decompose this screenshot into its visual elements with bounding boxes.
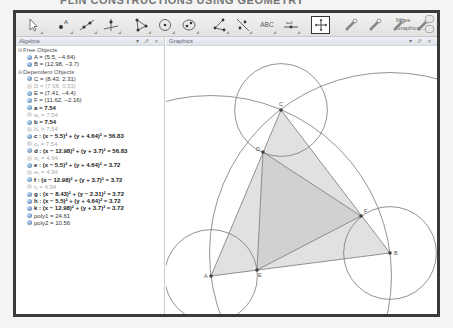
slider-tool[interactable]: a=1 xyxy=(281,16,300,34)
ellipse-tool[interactable] xyxy=(180,16,199,34)
algebra-item[interactable]: f₁ = 4.94 xyxy=(18,184,164,191)
point-C[interactable] xyxy=(279,108,283,112)
collapse-toggle-icon[interactable]: ⊟ xyxy=(18,69,22,75)
algebra-item[interactable]: h : (x − 5.5)² + (y + 4.64)² = 3.72 xyxy=(18,198,164,205)
visibility-toggle-icon[interactable] xyxy=(27,91,32,96)
visibility-toggle-icon[interactable] xyxy=(27,206,32,211)
algebra-item-text: A = (5.5, −4.64) xyxy=(34,54,75,60)
algebra-item-text: D = (7.68, 0.53) xyxy=(34,83,76,89)
algebra-item-text: h : (x − 5.5)² + (y + 4.64)² = 3.72 xyxy=(34,198,121,204)
point-B[interactable] xyxy=(388,251,392,255)
algebra-item[interactable]: C = (8.43, 2.31) xyxy=(18,76,164,83)
algebra-view: Algebra ▾ ⇗ × ⊟Free ObjectsA = (5.5, −4.… xyxy=(16,37,165,314)
visibility-toggle-icon[interactable] xyxy=(27,112,32,117)
visibility-toggle-icon[interactable] xyxy=(27,220,32,225)
algebra-item[interactable]: b = 7.54 xyxy=(18,119,164,126)
algebra-item[interactable]: e₁ = 4.94 xyxy=(18,169,164,176)
algebra-item[interactable]: c : (x − 5.5)² + (y + 4.64)² = 56.83 xyxy=(18,133,164,140)
algebra-item[interactable]: B = (12.98, −3.7) xyxy=(18,61,164,68)
custom-tool-2[interactable] xyxy=(365,16,384,34)
visibility-toggle-icon[interactable] xyxy=(27,105,32,110)
algebra-list: ⊟Free ObjectsA = (5.5, −4.64)B = (12.98,… xyxy=(16,46,164,227)
point-F[interactable] xyxy=(359,214,363,218)
point-label-A: A xyxy=(204,273,208,279)
visibility-toggle-icon[interactable] xyxy=(27,84,32,89)
algebra-item[interactable]: k : (x − 12.98)² + (y + 3.7)² = 3.72 xyxy=(18,205,164,212)
visibility-toggle-icon[interactable] xyxy=(27,76,32,81)
visibility-toggle-icon[interactable] xyxy=(27,120,32,125)
circle-center-point-icon xyxy=(157,18,173,32)
text-tool[interactable]: ABC xyxy=(257,16,276,34)
visibility-toggle-icon[interactable] xyxy=(27,55,32,60)
algebra-item[interactable]: a₁ = 7.54 xyxy=(18,112,164,119)
algebra-item[interactable]: D = (7.68, 0.53) xyxy=(18,83,164,90)
visibility-toggle-icon[interactable] xyxy=(27,163,32,168)
perpendicular-line-icon xyxy=(103,18,119,32)
move-tool[interactable] xyxy=(24,16,43,34)
line-tool[interactable] xyxy=(78,16,97,34)
angle-icon xyxy=(211,18,227,32)
polygon-tool[interactable] xyxy=(132,16,151,34)
algebra-item-text: e₁ = 4.94 xyxy=(34,169,58,175)
page-title: PLIN CONSTRUCTIONS USING GEOMETRY xyxy=(60,0,420,6)
point-label-F: F xyxy=(364,208,368,214)
algebra-item[interactable]: f : (x − 12.98)² + (y + 3.7)² = 3.72 xyxy=(18,177,164,184)
visibility-toggle-icon[interactable] xyxy=(27,184,32,189)
visibility-toggle-icon[interactable] xyxy=(27,199,32,204)
algebra-view-title: Algebra xyxy=(19,38,40,44)
visibility-toggle-icon[interactable] xyxy=(27,148,32,153)
algebra-item[interactable]: e : (x − 5.5)² + (y + 4.64)² = 3.72 xyxy=(18,162,164,169)
visibility-toggle-icon[interactable] xyxy=(27,127,32,132)
visibility-toggle-icon[interactable] xyxy=(27,98,32,103)
algebra-group-header[interactable]: ⊟Dependent Objects xyxy=(18,69,164,76)
algebra-item-text: poly2 = 10.56 xyxy=(34,220,70,226)
visibility-toggle-icon[interactable] xyxy=(27,62,32,67)
point-D[interactable] xyxy=(261,150,265,154)
algebra-item[interactable]: a = 7.54 xyxy=(18,105,164,112)
visibility-toggle-icon[interactable] xyxy=(27,141,32,146)
collapse-toggle-icon[interactable]: ⊟ xyxy=(18,47,22,53)
graphics-view-header: Graphics ▾ ⇗ × xyxy=(166,37,437,46)
graphics-view[interactable]: Graphics ▾ ⇗ × ABCDEF xyxy=(166,37,437,314)
undo-icon[interactable] xyxy=(425,15,434,23)
visibility-toggle-icon[interactable] xyxy=(27,192,32,197)
graphics-view-controls[interactable]: ▾ ⇗ × xyxy=(409,37,433,46)
visibility-toggle-icon[interactable] xyxy=(27,134,32,139)
point-tool[interactable]: A xyxy=(54,16,73,34)
circle-tool[interactable] xyxy=(156,16,175,34)
redo-icon[interactable] xyxy=(425,25,434,33)
point-A[interactable] xyxy=(209,274,213,278)
algebra-item[interactable]: E = (7.41, −4.4) xyxy=(18,90,164,97)
custom-tool-1[interactable] xyxy=(341,16,360,34)
pointer-arrow-icon xyxy=(25,18,41,32)
visibility-toggle-icon[interactable] xyxy=(27,156,32,161)
algebra-item[interactable]: A = (5.5, −4.64) xyxy=(18,54,164,61)
algebra-item[interactable]: poly2 = 10.56 xyxy=(18,220,164,227)
visibility-toggle-icon[interactable] xyxy=(27,170,32,175)
graphics-canvas[interactable]: ABCDEF xyxy=(166,46,440,317)
algebra-item[interactable]: d : (x − 12.98)² + (y + 3.7)² = 56.83 xyxy=(18,148,164,155)
algebra-item-text: f₁ = 4.94 xyxy=(34,184,56,190)
algebra-item[interactable]: b₁ = 7.54 xyxy=(18,126,164,133)
move-graphics-tool[interactable] xyxy=(311,16,330,34)
algebra-item[interactable]: g : (x − 8.43)² + (y − 2.31)² = 3.72 xyxy=(18,191,164,198)
algebra-item[interactable]: poly1 = 24.61 xyxy=(18,213,164,220)
reflect-tool[interactable] xyxy=(234,16,253,34)
visibility-toggle-icon[interactable] xyxy=(27,177,32,182)
algebra-item[interactable]: F = (11.62, −2.16) xyxy=(18,97,164,104)
algebra-item-text: B = (12.98, −3.7) xyxy=(34,61,79,67)
move-graphics-icon xyxy=(313,18,329,32)
algebra-group-header[interactable]: ⊟Free Objects xyxy=(18,47,164,54)
algebra-item[interactable]: d₁ = 4.94 xyxy=(18,155,164,162)
circle-e[interactable] xyxy=(166,230,257,317)
perpendicular-tool[interactable] xyxy=(102,16,121,34)
angle-tool[interactable] xyxy=(210,16,229,34)
algebra-item-text: c : (x − 5.5)² + (y + 4.64)² = 56.83 xyxy=(34,133,124,139)
visibility-toggle-icon[interactable] xyxy=(27,213,32,218)
algebra-group-label: Dependent Objects xyxy=(23,69,74,75)
algebra-view-controls[interactable]: ▾ ⇗ × xyxy=(136,37,160,46)
algebra-item[interactable]: c₁ = 7.54 xyxy=(18,141,164,148)
algebra-item-text: c₁ = 7.54 xyxy=(34,141,58,147)
graphics-view-title: Graphics xyxy=(169,38,193,44)
text-icon: ABC xyxy=(260,21,273,28)
